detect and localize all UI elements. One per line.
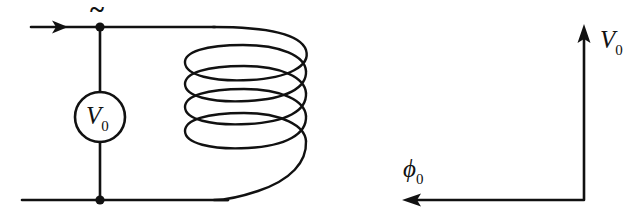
coil-turn-1 bbox=[185, 27, 307, 80]
coil-turn-4 bbox=[185, 113, 306, 148]
axes-group: V0 ϕ0 bbox=[402, 24, 623, 207]
coil-exit-turn bbox=[214, 141, 306, 200]
horizontal-axis-label-main: ϕ bbox=[403, 155, 416, 182]
vertical-axis-label-subscript: 0 bbox=[615, 42, 623, 58]
source-label: V0 bbox=[86, 102, 109, 134]
axis-lines bbox=[410, 34, 584, 200]
figure-root: V0 ~ bbox=[0, 0, 644, 223]
horizontal-axis-label-subscript: 0 bbox=[416, 171, 424, 187]
bottom-junction-node bbox=[95, 195, 104, 204]
circuit-group: V0 ~ bbox=[22, 0, 307, 205]
figure-canvas: V0 ~ bbox=[0, 0, 644, 223]
horizontal-axis-label: ϕ0 bbox=[403, 155, 423, 187]
source-label-subscript: 0 bbox=[101, 118, 109, 134]
ac-tilde-marker: ~ bbox=[90, 0, 104, 24]
inductor-coil bbox=[185, 27, 307, 200]
vertical-axis-label: V0 bbox=[600, 26, 623, 58]
